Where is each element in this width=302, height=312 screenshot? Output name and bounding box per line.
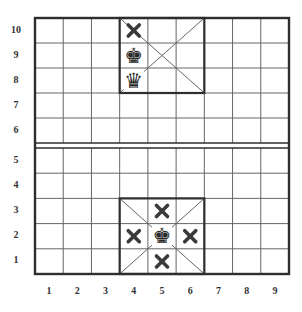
row-label: 3	[6, 204, 26, 215]
row-label: 4	[6, 179, 26, 190]
column-label: 2	[67, 285, 87, 296]
row-label: 6	[6, 124, 26, 135]
row-label: 9	[6, 49, 26, 60]
column-label: 1	[39, 285, 59, 296]
game-board: ♚♛♚	[0, 0, 302, 312]
row-label: 8	[6, 74, 26, 85]
column-label: 8	[237, 285, 257, 296]
column-label: 6	[180, 285, 200, 296]
row-label: 7	[6, 99, 26, 110]
row-label: 5	[6, 154, 26, 165]
column-label: 4	[124, 285, 144, 296]
column-label: 5	[152, 285, 172, 296]
row-label: 10	[6, 24, 26, 35]
column-label: 3	[96, 285, 116, 296]
king-icon: ♚	[153, 224, 172, 248]
king-icon: ♚	[124, 44, 143, 68]
row-label: 1	[6, 254, 26, 265]
row-label: 2	[6, 229, 26, 240]
queen-icon: ♛	[124, 69, 143, 93]
column-label: 9	[265, 285, 285, 296]
column-label: 7	[208, 285, 228, 296]
